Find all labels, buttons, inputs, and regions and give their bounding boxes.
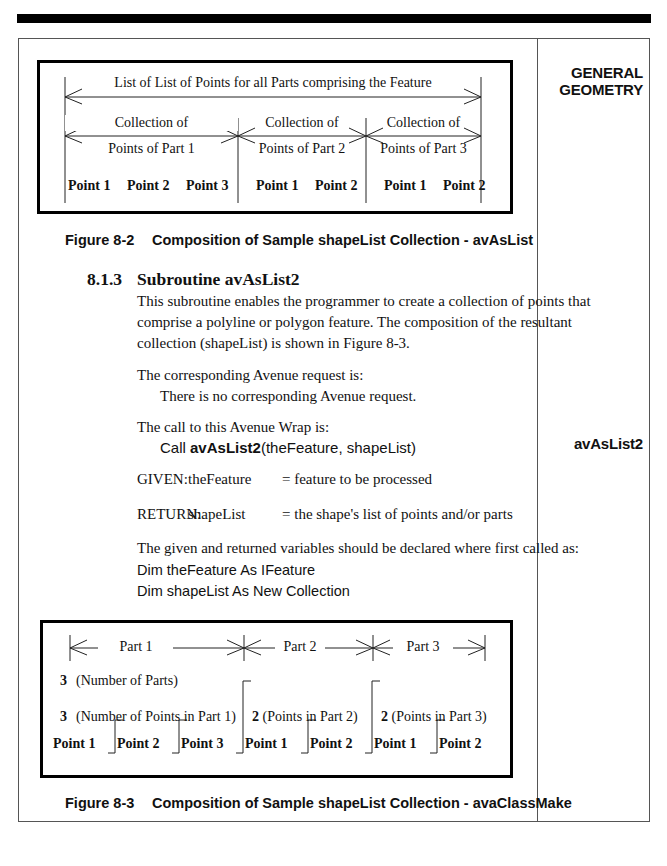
figure-8-2-number: Figure 8-2	[65, 232, 152, 248]
fig3-part3-label: Part 3	[393, 639, 453, 655]
header-rule	[17, 14, 651, 23]
fig3-point-6: Point 1	[374, 736, 416, 752]
paragraph-line-3: collection (shapeList) is shown in Figur…	[137, 333, 591, 354]
sidebar-title-line1: GENERAL	[559, 64, 643, 81]
section-paragraph: This subroutine enables the programmer t…	[137, 291, 591, 354]
declare-line-1: Dim theFeature As IFeature	[137, 560, 350, 581]
figure-8-3-box: Part 1 Part 2 Part 3 3(Number of Parts) …	[40, 620, 513, 778]
call-args: (theFeature, shapeList)	[261, 439, 416, 456]
paragraph-line-2: comprise a polyline or polygon feature. …	[137, 312, 591, 333]
figure-8-2-box: List of List of Points for all Parts com…	[37, 60, 513, 214]
call-prefix: Call	[160, 439, 190, 456]
return-var: shapeList	[188, 504, 282, 525]
fig3-part2-label: Part 2	[275, 639, 325, 655]
fig3-point-5: Point 2	[310, 736, 352, 752]
sidebar-marker: avAsList2	[574, 435, 643, 452]
call-intro: The call to this Avenue Wrap is:	[137, 417, 329, 438]
avenue-intro: The corresponding Avenue request is:	[137, 365, 363, 386]
given-row: GIVEN:theFeature= feature to be processe…	[137, 469, 432, 490]
sidebar-title-line2: GEOMETRY	[559, 81, 643, 98]
figure-8-2-top-label: List of List of Points for all Parts com…	[65, 75, 481, 91]
part3-count-label: (Points in Part 3)	[392, 709, 487, 724]
call-name: avAsList2	[190, 439, 261, 456]
call-signature: Call avAsList2(theFeature, shapeList)	[160, 439, 416, 456]
part1-label-line2: Points of Part 1	[65, 141, 238, 157]
section-heading-sidebar: GENERAL GEOMETRY	[559, 64, 643, 98]
part1-count-row: 3(Number of Points in Part 1)	[60, 709, 236, 725]
figure-8-3-caption: Figure 8-3Composition of Sample shapeLis…	[65, 795, 572, 811]
return-label: RETURN:	[137, 504, 188, 525]
figure-8-3-number: Figure 8-3	[65, 795, 152, 811]
part2-label-line1: Collection of	[238, 115, 366, 131]
figure-8-3-caption-text: Composition of Sample shapeList Collecti…	[152, 795, 572, 811]
fig3-point-7: Point 2	[439, 736, 481, 752]
num-parts-label: (Number of Parts)	[76, 673, 178, 688]
fig3-point-2: Point 2	[117, 736, 159, 752]
part2-label-line2: Points of Part 2	[238, 141, 366, 157]
section-heading: 8.1.3Subroutine avAsList2	[87, 269, 300, 290]
figure-8-2-caption-text: Composition of Sample shapeList Collecti…	[152, 232, 533, 248]
fig3-point-3: Point 3	[181, 736, 223, 752]
fig2-part2-point1: Point 1	[256, 178, 298, 194]
given-label: GIVEN:	[137, 469, 188, 490]
part3-label-line1: Collection of	[366, 115, 481, 131]
part3-label-line2: Points of Part 3	[366, 141, 481, 157]
fig3-point-4: Point 1	[245, 736, 287, 752]
paragraph-line-1: This subroutine enables the programmer t…	[137, 291, 591, 312]
avenue-value: There is no corresponding Avenue request…	[160, 386, 416, 407]
given-var: theFeature	[188, 469, 282, 490]
fig2-part1-point2: Point 2	[127, 178, 169, 194]
part3-count-row: 2 (Points in Part 3)	[381, 709, 487, 725]
fig2-part1-point1: Point 1	[68, 178, 110, 194]
given-desc: = feature to be processed	[282, 471, 432, 487]
part1-count-label: (Number of Points in Part 1)	[76, 709, 236, 724]
return-desc: = the shape's list of points and/or part…	[282, 506, 513, 522]
part2-count-label: (Points in Part 2)	[263, 709, 358, 724]
num-parts-row: 3(Number of Parts)	[60, 673, 178, 689]
fig2-part3-point1: Point 1	[384, 178, 426, 194]
part1-label-line1: Collection of	[65, 115, 238, 131]
return-row: RETURN:shapeList= the shape's list of po…	[137, 504, 513, 525]
declare-line-2: Dim shapeList As New Collection	[137, 581, 350, 602]
declare-block: Dim theFeature As IFeature Dim shapeList…	[137, 560, 350, 602]
declare-intro: The given and returned variables should …	[137, 538, 579, 559]
part2-count-row: 2 (Points in Part 2)	[252, 709, 358, 725]
num-parts-value: 3	[60, 673, 76, 689]
fig3-point-1: Point 1	[53, 736, 95, 752]
fig2-part1-point3: Point 3	[186, 178, 228, 194]
figure-8-2-caption: Figure 8-2Composition of Sample shapeLis…	[65, 232, 533, 248]
margin-divider	[537, 38, 538, 822]
fig3-part1-label: Part 1	[99, 639, 173, 655]
fig2-part3-point2: Point 2	[443, 178, 485, 194]
section-title: Subroutine avAsList2	[137, 269, 300, 289]
part3-count-value: 2	[381, 709, 388, 724]
fig2-part2-point2: Point 2	[315, 178, 357, 194]
part1-count-value: 3	[60, 709, 76, 725]
part2-count-value: 2	[252, 709, 259, 724]
section-number: 8.1.3	[87, 269, 137, 290]
